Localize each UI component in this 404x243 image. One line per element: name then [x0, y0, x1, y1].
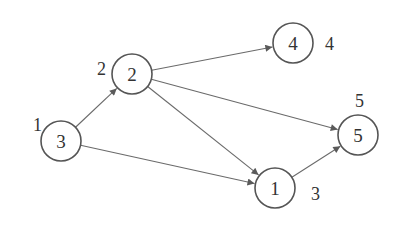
edge-2-to-4: [152, 47, 273, 70]
node-order-label: 5: [355, 91, 364, 111]
graph-canvas: 3122445513: [0, 0, 404, 243]
node-label: 4: [288, 33, 298, 54]
graph-node-4: 44: [273, 23, 334, 63]
edge-2-to-1: [148, 86, 259, 174]
node-label: 5: [353, 125, 363, 146]
node-label: 1: [270, 178, 280, 199]
nodes-layer: 3122445513: [33, 23, 378, 208]
graph-diagram: 3122445513: [0, 0, 404, 243]
graph-node-3: 31: [33, 115, 81, 161]
node-order-label: 3: [311, 184, 320, 204]
edge-1-to-5: [292, 146, 340, 177]
node-label: 3: [56, 131, 66, 152]
node-order-label: 4: [325, 34, 334, 54]
edge-2-to-5: [151, 79, 337, 129]
graph-node-1: 13: [255, 168, 320, 208]
graph-node-2: 22: [97, 54, 152, 94]
node-order-label: 2: [97, 59, 106, 79]
edge-3-to-2: [76, 88, 117, 127]
graph-node-5: 55: [338, 91, 378, 155]
node-label: 2: [127, 64, 137, 85]
node-order-label: 1: [33, 115, 42, 135]
